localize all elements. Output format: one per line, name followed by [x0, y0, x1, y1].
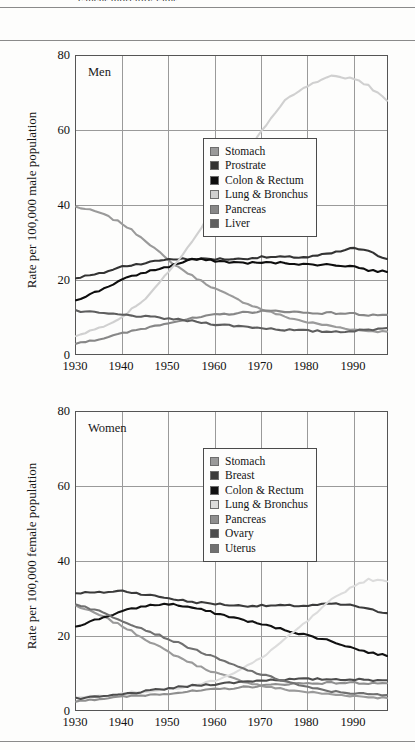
legend-row: Colon & Rectum	[210, 173, 308, 188]
legend-row: Lung & Bronchus	[210, 498, 308, 513]
legend-row: Lung & Bronchus	[210, 188, 308, 203]
x-tick: 1970	[248, 359, 273, 374]
y-tick: 80	[30, 404, 70, 419]
legend-label: Pancreas	[225, 204, 266, 216]
x-tick: 1960	[202, 715, 227, 730]
y-ticks-men: 0 20 40 60 80	[26, 55, 70, 355]
legend-row: Prostrate	[210, 159, 308, 174]
x-tick: 1930	[63, 359, 88, 374]
y-tick: 60	[30, 479, 70, 494]
legend-swatch-icon	[210, 219, 219, 228]
chart-women: Rate per 100,000 female population 0 20 …	[0, 400, 415, 740]
top-rule	[0, 7, 415, 8]
cut-header-text: cancer mortality rates	[78, 0, 178, 1]
legend-row: Pancreas	[210, 202, 308, 217]
header-rule	[0, 40, 415, 41]
legend-swatch-icon	[210, 205, 219, 214]
legend-row: Stomach	[210, 144, 308, 159]
legend-swatch-icon	[210, 500, 219, 509]
legend-label: Uterus	[225, 543, 256, 555]
legend-swatch-icon	[210, 544, 219, 553]
legend-label: Colon & Rectum	[225, 485, 304, 497]
y-tick: 80	[30, 48, 70, 63]
figure-page: cancer mortality rates Rate per 100,000 …	[0, 0, 415, 750]
legend-swatch-icon	[210, 147, 219, 156]
legend-label: Stomach	[225, 456, 265, 468]
legend-label: Ovary	[225, 528, 254, 540]
y-tick: 40	[30, 554, 70, 569]
x-tick: 1950	[155, 359, 180, 374]
x-tick: 1960	[202, 359, 227, 374]
legend-men: StomachProstrateColon & RectumLung & Bro…	[203, 138, 317, 237]
legend-women: StomachBreastColon & RectumLung & Bronch…	[203, 448, 317, 562]
series-line	[76, 606, 387, 699]
y-tick: 20	[30, 629, 70, 644]
x-tick: 1940	[109, 359, 134, 374]
chart-men: Rate per 100,000 male population 0 20 40…	[0, 44, 415, 384]
x-tick: 1940	[109, 715, 134, 730]
legend-swatch-icon	[210, 176, 219, 185]
legend-row: Colon & Rectum	[210, 483, 308, 498]
legend-label: Stomach	[225, 146, 265, 158]
x-tick: 1980	[294, 359, 319, 374]
y-tick: 40	[30, 198, 70, 213]
x-tick: 1980	[294, 715, 319, 730]
series-line	[76, 604, 387, 656]
legend-label: Pancreas	[225, 514, 266, 526]
legend-label: Prostrate	[225, 160, 266, 172]
y-tick: 20	[30, 273, 70, 288]
legend-label: Lung & Bronchus	[225, 499, 308, 511]
y-tick: 60	[30, 123, 70, 138]
x-tick: 1990	[341, 715, 366, 730]
legend-swatch-icon	[210, 457, 219, 466]
bottom-rule	[0, 741, 415, 742]
x-ticks-women: 1930 1940 1950 1960 1970 1980 1990	[75, 715, 388, 735]
legend-row: Liver	[210, 217, 308, 232]
legend-label: Lung & Bronchus	[225, 189, 308, 201]
y-ticks-women: 0 20 40 60 80	[26, 411, 70, 711]
legend-swatch-icon	[210, 161, 219, 170]
legend-swatch-icon	[210, 471, 219, 480]
legend-label: Liver	[225, 218, 250, 230]
legend-row: Ovary	[210, 527, 308, 542]
legend-row: Uterus	[210, 541, 308, 556]
legend-swatch-icon	[210, 486, 219, 495]
legend-swatch-icon	[210, 529, 219, 538]
legend-label: Colon & Rectum	[225, 175, 304, 187]
legend-swatch-icon	[210, 515, 219, 524]
legend-row: Pancreas	[210, 512, 308, 527]
x-tick: 1950	[155, 715, 180, 730]
x-ticks-men: 1930 1940 1950 1960 1970 1980 1990	[75, 359, 388, 379]
legend-swatch-icon	[210, 190, 219, 199]
legend-row: Breast	[210, 469, 308, 484]
x-tick: 1970	[248, 715, 273, 730]
legend-label: Breast	[225, 470, 254, 482]
x-tick: 1990	[341, 359, 366, 374]
legend-row: Stomach	[210, 454, 308, 469]
x-tick: 1930	[63, 715, 88, 730]
